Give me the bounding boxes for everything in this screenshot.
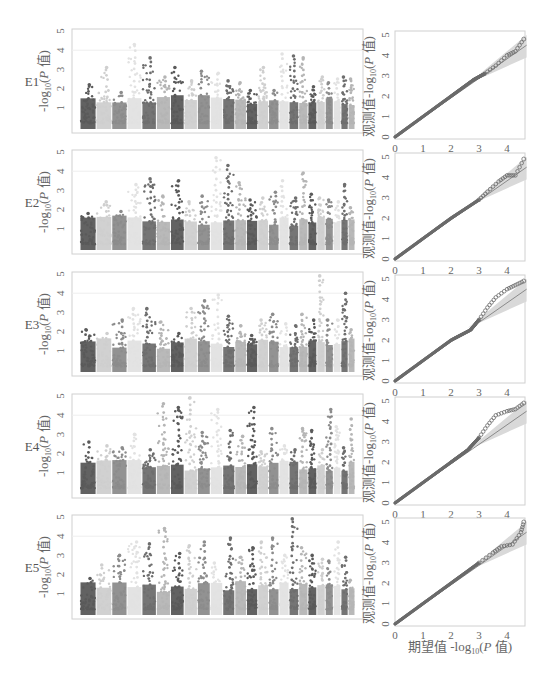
peak-point: [148, 56, 152, 60]
y-tick-label: 1: [379, 114, 391, 120]
y-tick-label: 2: [379, 459, 391, 465]
y-tick-label: 4: [54, 47, 66, 53]
y-tick-label: 1: [54, 591, 66, 597]
peak-point: [312, 85, 316, 89]
y-tick-label: 1: [54, 226, 66, 232]
x-tick-label: 1: [420, 386, 426, 398]
y-tick-label: 3: [54, 552, 66, 558]
peak-point: [270, 427, 274, 431]
x-tick-label: 4: [504, 142, 510, 154]
peak-point: [133, 433, 137, 437]
chromosome-block: [171, 465, 184, 494]
y-tick-label: 0: [379, 378, 391, 384]
peak-point: [163, 527, 167, 531]
y-tick-label: 2: [54, 451, 66, 457]
peak-point: [344, 556, 348, 560]
x-tick-label: 0: [392, 386, 398, 398]
chromosome-block: [185, 221, 197, 250]
peak-point: [203, 299, 207, 303]
x-tick-label: 4: [504, 386, 510, 398]
peak-point: [349, 77, 353, 81]
qq-y-axis-label: -log10(P 值): [361, 523, 378, 585]
y-tick-label: 5: [379, 32, 391, 38]
peak-point: [294, 196, 298, 200]
y-tick-label: 5: [54, 393, 66, 399]
y-tick-label: 3: [54, 66, 66, 72]
y-tick-label: 0: [379, 621, 391, 627]
x-tick-label: 1: [420, 142, 426, 154]
y-tick-label: 3: [379, 439, 391, 445]
peak-point: [238, 81, 242, 85]
peak-point: [261, 196, 265, 200]
peak-point: [262, 66, 266, 70]
peak-point: [300, 546, 304, 550]
peak-point: [260, 540, 264, 544]
peak-point: [145, 307, 149, 311]
qq-observed-label: 观测值: [361, 98, 376, 137]
peak-point: [272, 89, 276, 93]
y-tick-label: 0: [379, 256, 391, 262]
manhattan-plot: 12345-log10(P 值): [36, 28, 363, 133]
y-tick-label: 3: [379, 317, 391, 323]
chromosome-block: [128, 98, 142, 129]
peak-point: [284, 322, 288, 326]
peak-point: [349, 417, 353, 421]
peak-point: [336, 200, 340, 204]
y-tick-label: 3: [54, 309, 66, 315]
y-tick-label: 5: [379, 519, 391, 525]
qq-y-axis-label: -log10(P 值): [361, 280, 378, 342]
y-tick-label: 1: [54, 470, 66, 476]
peak-point: [161, 194, 165, 198]
chromosome-block: [157, 466, 170, 494]
peak-point: [310, 429, 314, 433]
y-tick-label: 5: [54, 271, 66, 277]
y-tick-label: 5: [54, 514, 66, 520]
qq-plot: 01234501234观测值-log10(P 值): [361, 275, 527, 398]
peak-point: [200, 70, 204, 74]
qq-observed-label: 观测值: [361, 220, 376, 259]
peak-point: [239, 324, 243, 328]
peak-point: [301, 56, 305, 60]
peak-point: [250, 334, 254, 338]
peak-point: [249, 89, 253, 93]
qq-plot: 01234501234观测值-log10(P 值): [361, 518, 527, 641]
peak-point: [310, 192, 314, 196]
peak-point: [87, 83, 91, 87]
qq-observed-label: 观测值: [361, 342, 376, 381]
qq-y-axis-label: -log10(P 值): [361, 158, 378, 220]
peak-point: [342, 446, 346, 450]
y-tick-label: 4: [54, 168, 66, 174]
peak-point: [132, 307, 136, 311]
peak-point: [100, 563, 104, 567]
y-tick-label: 4: [54, 412, 66, 418]
x-tick-label: 0: [392, 142, 398, 154]
manhattan-plot: 12345-log10(P 值): [36, 149, 363, 254]
peak-point: [318, 274, 322, 278]
chromosome-block: [299, 347, 307, 372]
y-tick-label: 3: [379, 73, 391, 79]
peak-point: [348, 579, 352, 583]
peak-point: [327, 198, 331, 202]
peak-point: [329, 408, 333, 412]
peak-point: [290, 517, 294, 521]
peak-point: [318, 196, 322, 200]
peak-point: [216, 408, 220, 412]
y-tick-label: 2: [54, 572, 66, 578]
y-tick-label: 2: [379, 215, 391, 221]
peak-point: [119, 91, 123, 95]
peak-point: [120, 446, 124, 450]
peak-point: [200, 194, 204, 198]
peak-point: [229, 536, 233, 540]
y-tick-label: 3: [379, 560, 391, 566]
qq-plot: 01234501234观测值-log10(P 值): [361, 397, 527, 520]
y-tick-label: 5: [379, 154, 391, 160]
peak-point: [283, 554, 287, 558]
peak-point: [105, 444, 109, 448]
peak-point: [251, 546, 255, 550]
peak-point: [252, 406, 256, 410]
peak-point: [214, 156, 218, 160]
peak-point: [336, 540, 340, 544]
row-e3: E312345-log10(P 值)01234501234观测值-log10(P…: [25, 271, 527, 398]
y-tick-label: 4: [379, 52, 391, 58]
peak-point: [135, 540, 139, 544]
